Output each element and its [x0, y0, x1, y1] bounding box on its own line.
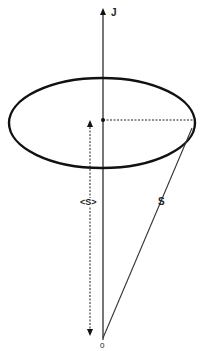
avg-s-arrowhead-bottom-icon: [87, 329, 93, 336]
s-vector-label: S: [158, 197, 165, 207]
origin-label: 0: [100, 342, 104, 350]
avg-s-label: <S>: [80, 198, 97, 207]
precession-diagram: [0, 0, 202, 351]
precession-ellipse: [9, 78, 195, 168]
s-vector-line: [103, 128, 192, 338]
avg-s-arrowhead-top-icon: [87, 120, 93, 127]
j-axis-arrowhead-icon: [100, 8, 106, 15]
j-axis-label: J: [111, 8, 117, 18]
center-dot: [101, 118, 105, 122]
